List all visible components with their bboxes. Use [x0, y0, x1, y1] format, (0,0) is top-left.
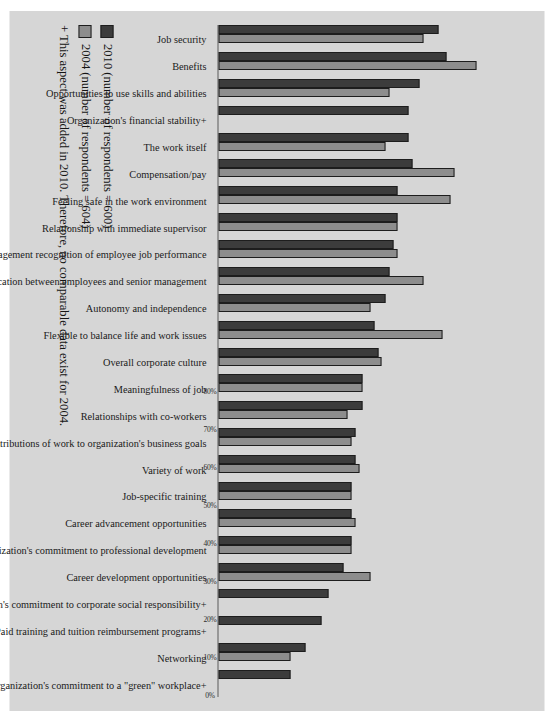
chart-legend: 2010 (number of respondents = 600) 2004 … — [56, 25, 115, 697]
bar-2010 — [219, 159, 413, 168]
legend-swatch-2004-icon — [79, 25, 92, 38]
bar-2004 — [219, 61, 477, 70]
category-label: Paid training and tuition reimbursement … — [207, 631, 418, 642]
category-label: Organization's commitment to corporate s… — [207, 604, 464, 615]
bar-2010 — [219, 321, 375, 330]
category-label: Job security — [207, 39, 256, 50]
category-label: Meaningfulness of job — [207, 389, 300, 400]
category-label-text: Compensation/pay — [129, 168, 206, 179]
legend-label-2010: 2010 (number of respondents = 600) — [100, 44, 115, 228]
category-label: Flexible to balance life and work issues — [207, 335, 370, 346]
bar-group — [219, 643, 523, 670]
bar-2010 — [219, 213, 398, 222]
bar-group — [219, 25, 523, 52]
category-label: Organization's commitment to a "green" w… — [207, 685, 424, 696]
category-label: Overall corporate culture — [207, 362, 311, 373]
category-label: Variety of work — [207, 470, 272, 481]
category-label-text: Job-specific training — [122, 491, 206, 502]
category-label-text: The work itself — [144, 141, 207, 152]
bar-2010 — [219, 79, 420, 88]
bar-2010 — [219, 643, 306, 652]
category-label: Contributions of work to organization's … — [207, 443, 431, 454]
chart-page: 0%10%20%30%40%50%60%70%80% Job securityB… — [0, 0, 554, 722]
category-label: Organization's commitment to professiona… — [207, 550, 440, 561]
bar-2010 — [219, 509, 352, 518]
bar-2010 — [219, 563, 344, 572]
legend-label-2004: 2004 (number of respondents = 604) — [78, 44, 93, 228]
bar-2010 — [219, 428, 356, 437]
bar-2010 — [219, 536, 352, 545]
axis-tick-label: 20% — [203, 615, 216, 624]
bar-2010 — [219, 294, 386, 303]
bar-2010 — [219, 348, 379, 357]
bar-2010 — [219, 670, 291, 679]
bar-2010 — [219, 133, 409, 142]
category-label: Relationship with immediate supervisor — [207, 228, 371, 239]
category-label: Compensation/pay — [207, 174, 284, 185]
category-label: Feeling safe in the work environment — [207, 201, 361, 212]
legend-swatch-2010-icon — [101, 25, 114, 38]
bar-2010 — [219, 616, 322, 625]
category-label: Autonomy and independence — [207, 308, 328, 319]
category-label: Relationships with co-workers — [207, 416, 333, 427]
category-label: Communication between employees and seni… — [207, 281, 457, 292]
category-label-text: Networking — [157, 652, 206, 663]
category-label-text: Variety of work — [142, 464, 207, 475]
legend-item-2010: 2010 (number of respondents = 600) — [100, 25, 115, 697]
bar-2010 — [219, 589, 329, 598]
bar-2010 — [219, 25, 439, 34]
category-label: Job-specific training — [207, 496, 291, 507]
bar-2010 — [219, 482, 352, 491]
bar-2010 — [219, 455, 356, 464]
chart-footnote: + This aspect was added in 2010. Therefo… — [56, 25, 71, 697]
category-label: Opportunities to use skills and abilitie… — [207, 93, 367, 104]
bar-2010 — [219, 374, 363, 383]
bar-2010 — [219, 401, 363, 410]
category-label: Career advancement opportunities — [207, 523, 348, 534]
category-label-text: Job security — [157, 34, 206, 45]
category-label: Benefits — [207, 66, 241, 77]
bar-group — [219, 52, 523, 79]
category-label: Career development opportunities — [207, 577, 347, 588]
category-label: Organization's financial stability+ — [207, 120, 347, 131]
category-label-text: Overall corporate culture — [103, 357, 207, 368]
bar-chart-figure: 0%10%20%30%40%50%60%70%80% Job securityB… — [10, 11, 545, 711]
bar-2010 — [219, 52, 447, 61]
bar-2010 — [219, 267, 390, 276]
category-label-text: Benefits — [172, 61, 206, 72]
bar-2010 — [219, 106, 409, 115]
bar-2010 — [219, 186, 398, 195]
category-label-text: Meaningfulness of job — [114, 383, 207, 394]
category-label: The work itself — [207, 147, 270, 158]
legend-item-2004: 2004 (number of respondents = 604) — [78, 25, 93, 697]
category-label: Management recognition of employee job p… — [207, 254, 434, 265]
bar-2010 — [219, 240, 394, 249]
category-label: Networking — [207, 658, 256, 669]
